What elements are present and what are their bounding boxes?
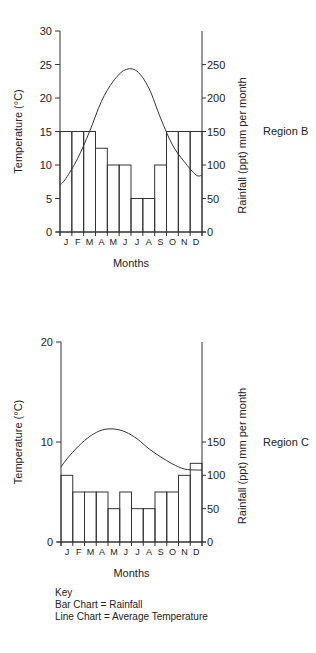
rain-tick-label: 50 — [207, 193, 219, 205]
key-bar-entry: Bar Chart = Rainfall — [55, 599, 208, 611]
rain-tick-label: 100 — [207, 469, 225, 481]
rainfall-bar — [72, 132, 84, 233]
temp-tick-label: 20 — [40, 92, 52, 104]
month-label: A — [99, 547, 105, 557]
rainfall-bar — [167, 132, 179, 233]
rainfall-bar — [96, 148, 108, 232]
rainfall-bar — [155, 492, 167, 542]
month-label: A — [98, 237, 104, 247]
month-label: J — [64, 237, 69, 247]
rain-tick-label: 100 — [207, 159, 225, 171]
temp-tick-label: 25 — [40, 59, 52, 71]
region-label: Region B — [263, 125, 308, 137]
rainfall-bar — [155, 165, 167, 232]
legend-key: Key Bar Chart = Rainfall Line Chart = Av… — [55, 587, 208, 623]
rainfall-bar — [85, 492, 97, 542]
rainfall-bar — [131, 199, 143, 233]
y2-axis-title: Rainfall (ppt) mm per month — [236, 77, 248, 213]
temp-tick-label: 10 — [41, 436, 53, 448]
region-label: Region C — [263, 436, 309, 448]
month-label: A — [146, 237, 152, 247]
rainfall-bar — [167, 492, 179, 542]
rainfall-bar — [119, 165, 131, 232]
key-line-entry: Line Chart = Average Temperature — [55, 611, 208, 623]
month-label: D — [193, 547, 200, 557]
rainfall-bar — [108, 509, 120, 542]
temp-tick-label: 15 — [40, 126, 52, 138]
temp-tick-label: 5 — [46, 193, 52, 205]
rain-tick-label: 200 — [207, 92, 225, 104]
y-axis-title: Temperature (°C) — [12, 89, 24, 173]
rain-tick-label: 150 — [207, 126, 225, 138]
rainfall-bar — [190, 132, 202, 233]
month-label: F — [76, 547, 82, 557]
rainfall-bar — [190, 463, 202, 542]
month-label: F — [75, 237, 81, 247]
rainfall-bar — [60, 132, 72, 233]
rainfall-bar — [61, 475, 73, 542]
month-label: N — [181, 547, 188, 557]
x-axis-title: Months — [113, 567, 150, 579]
temp-tick-label: 0 — [46, 226, 52, 238]
month-label: J — [135, 547, 140, 557]
month-label: M — [86, 237, 94, 247]
rainfall-bar — [107, 165, 119, 232]
rain-tick-label: 0 — [207, 226, 213, 238]
rainfall-bar — [84, 132, 96, 233]
month-label: M — [110, 237, 118, 247]
month-label: J — [123, 237, 128, 247]
month-label: O — [169, 547, 176, 557]
temp-tick-label: 0 — [47, 536, 53, 548]
climate-charts: JFMAMJJASOND051015202530050100150200250T… — [0, 0, 316, 653]
rainfall-bar — [143, 509, 155, 542]
rainfall-bar — [73, 492, 85, 542]
month-label: N — [181, 237, 188, 247]
x-axis-title: Months — [113, 257, 150, 269]
month-label: S — [158, 237, 164, 247]
temp-tick-label: 10 — [40, 159, 52, 171]
rain-tick-label: 150 — [207, 436, 225, 448]
y2-axis-title: Rainfall (ppt) mm per month — [236, 388, 248, 524]
month-label: O — [169, 237, 176, 247]
month-label: M — [87, 547, 95, 557]
rainfall-bar — [120, 492, 132, 542]
chart-region-b: JFMAMJJASOND051015202530050100150200250T… — [12, 25, 308, 269]
month-label: A — [146, 547, 152, 557]
temp-tick-label: 30 — [40, 25, 52, 37]
y-axis-title: Temperature (°C) — [12, 400, 24, 484]
key-title: Key — [55, 587, 208, 599]
rainfall-bar — [178, 132, 190, 233]
rain-tick-label: 0 — [207, 536, 213, 548]
rainfall-bar — [179, 475, 191, 542]
rainfall-bar — [132, 509, 144, 542]
temp-tick-label: 20 — [41, 336, 53, 348]
chart-region-c: JFMAMJJASOND01020050100150Temperature (°… — [12, 336, 309, 579]
month-label: J — [65, 547, 70, 557]
month-label: S — [158, 547, 164, 557]
rain-tick-label: 250 — [207, 59, 225, 71]
rain-tick-label: 50 — [207, 503, 219, 515]
month-label: M — [110, 547, 118, 557]
month-label: J — [135, 237, 140, 247]
rainfall-bar — [96, 492, 108, 542]
temperature-line — [61, 429, 202, 470]
rainfall-bar — [143, 199, 155, 233]
month-label: D — [193, 237, 200, 247]
month-label: J — [123, 547, 128, 557]
